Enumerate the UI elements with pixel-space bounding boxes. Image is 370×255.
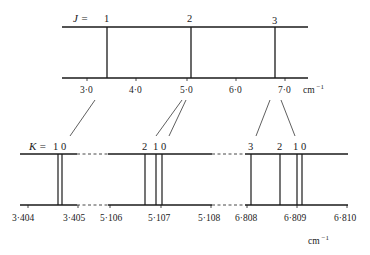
bottom-tick-label: 5·107: [148, 213, 170, 223]
top-tick-label: 4·0: [129, 85, 142, 95]
k-label-g2-k10: 1 0: [153, 141, 166, 152]
zoom-connectors: [70, 100, 295, 136]
j-label-3: 3: [272, 15, 277, 26]
k-label-g3-k2: 2: [277, 141, 282, 152]
bottom-tick-label: 3·404: [12, 213, 34, 223]
bottom-unit-label: cm−1: [308, 234, 330, 246]
connector-line: [70, 100, 95, 136]
bottom-tick-label: 6·808: [235, 213, 257, 223]
k-label-g2-k2: 2: [142, 141, 147, 152]
bottom-tick-label: 3·405: [63, 213, 85, 223]
top-diagram: [62, 27, 308, 81]
bottom-tick-label: 6·810: [334, 213, 356, 223]
top-unit-label: cm−1: [303, 83, 325, 95]
k-label-g3-k3: 3: [248, 141, 253, 152]
energy-level-diagram: J = 1 2 3 3·0 4·0 5·0 6·0 7·0 cm−1: [0, 0, 370, 255]
connector-line: [281, 100, 295, 136]
bottom-tick-label: 6·809: [284, 213, 306, 223]
top-tick-label: 7·0: [278, 85, 291, 95]
j-label-1: 1: [104, 13, 109, 24]
top-tick-label: 6·0: [229, 85, 242, 95]
bottom-tick-label: 5·106: [100, 213, 122, 223]
k-axis-label: K =: [28, 140, 47, 152]
j-axis-label: J =: [73, 12, 88, 24]
j-label-2: 2: [187, 13, 192, 24]
k-label-g3-k10: 1 0: [293, 141, 306, 152]
bottom-diagram: [20, 154, 348, 208]
connector-line: [156, 100, 182, 136]
connector-line: [256, 100, 270, 136]
k-label-g1: 1 0: [53, 141, 66, 152]
connector-line: [169, 100, 186, 136]
top-tick-label: 3·0: [80, 85, 93, 95]
top-tick-label: 5·0: [180, 85, 193, 95]
bottom-tick-label: 5·108: [198, 213, 220, 223]
